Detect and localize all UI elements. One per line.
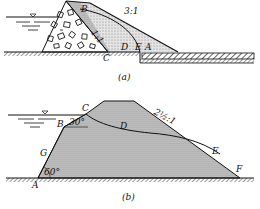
- label-E-a: E: [134, 42, 142, 52]
- caption-b: (b): [122, 192, 135, 202]
- dam-seepage-diagram: B 3:1 1:1 C D E A (a) C: [0, 0, 260, 209]
- label-A-b: A: [31, 180, 39, 190]
- label-A-a: A: [144, 42, 152, 52]
- figure-a: B 3:1 1:1 C D E A (a): [4, 1, 254, 82]
- label-B-a: B: [80, 4, 88, 14]
- label-C-b: C: [82, 103, 89, 113]
- label-G-b: G: [40, 148, 47, 158]
- label-D-b: D: [119, 121, 127, 131]
- caption-a: (a): [118, 72, 131, 82]
- water-a: [6, 14, 58, 30]
- angle-30: 30°: [69, 117, 85, 127]
- label-C-a: C: [103, 53, 110, 63]
- label-E-b: E: [211, 146, 219, 156]
- drain-blanket-a: [142, 53, 254, 59]
- embankment-b: [38, 101, 240, 178]
- label-F-b: F: [235, 164, 243, 174]
- water-level-icon: [42, 111, 48, 114]
- ground-b: [6, 178, 254, 182]
- ground-a: [4, 52, 140, 56]
- figure-b: C B 30° D 2½:1 E F G 60° A (b): [6, 101, 254, 202]
- slope-label-a: 3:1: [124, 6, 138, 16]
- angle-60: 60°: [44, 167, 60, 177]
- label-B-b: B: [56, 119, 64, 129]
- label-D-a: D: [120, 42, 128, 52]
